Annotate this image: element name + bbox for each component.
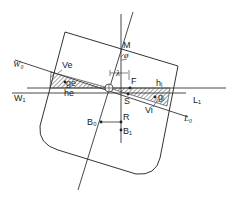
label-s: S	[124, 96, 130, 106]
label-m: M	[123, 40, 131, 50]
label-gi: gᵢ	[158, 92, 164, 102]
label-phi: ø	[123, 50, 129, 60]
label-b0: B₀	[87, 117, 97, 127]
label-vi: Vi	[145, 105, 153, 115]
label-ge: ge	[66, 78, 76, 88]
label-r: R	[123, 112, 130, 122]
label-he: he	[64, 88, 74, 98]
stability-diagram: M ø λ F S W₀ W₁ L₁ L₀ Ve ge he hᵢ gᵢ Vi …	[0, 0, 236, 200]
label-b1: B₁	[123, 126, 132, 136]
label-l0: L₀	[183, 113, 192, 123]
label-f: F	[131, 76, 137, 86]
label-l1: L₁	[193, 95, 201, 105]
label-lambda: λ	[115, 68, 120, 78]
label-w1: W₁	[14, 93, 26, 103]
point-s	[127, 93, 130, 96]
label-w0: W₀	[13, 59, 24, 69]
point-f	[129, 87, 132, 90]
point-gi	[154, 96, 157, 99]
point-b0	[100, 121, 103, 124]
label-hi: hᵢ	[156, 78, 162, 88]
point-r	[120, 121, 123, 124]
point-b1	[120, 129, 123, 132]
label-ve: Ve	[62, 60, 73, 70]
